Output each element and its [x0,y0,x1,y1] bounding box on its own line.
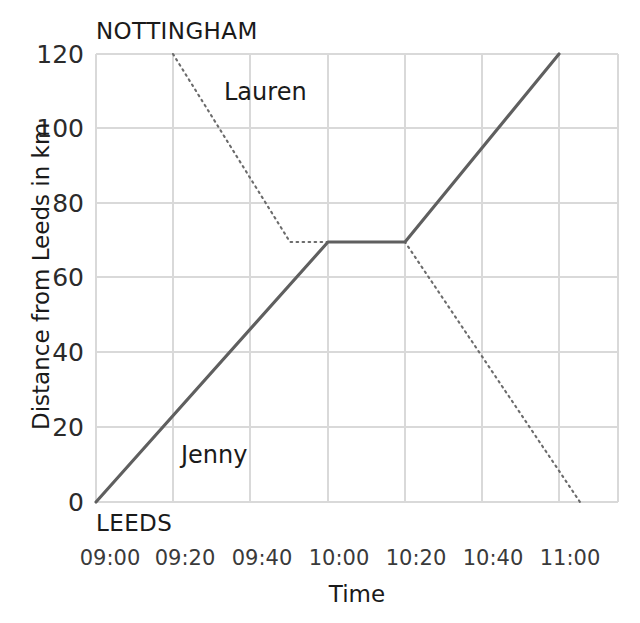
terminus-label-nottingham: NOTTINGHAM [96,20,258,43]
series-label-lauren: Lauren [224,80,307,104]
y-tick-0: 0 [36,490,84,515]
terminus-label-leeds: LEEDS [96,512,172,535]
x-tick-1020: 10:20 [386,548,447,569]
x-tick-0940: 09:40 [232,548,293,569]
y-tick-120: 120 [36,42,84,67]
x-tick-0920: 09:20 [155,548,216,569]
series-label-jenny: Jenny [181,443,247,467]
x-tick-1000: 10:00 [309,548,370,569]
x-tick-0900: 09:00 [80,548,141,569]
horizontal-gridlines [96,54,618,502]
vertical-gridlines [96,54,618,502]
x-axis-title: Time [329,583,385,606]
travel-graph-chart: 120 100 80 60 40 20 0 09:00 09:20 09:40 … [0,0,640,623]
y-axis-title: Distance from Leeds in km [30,123,53,430]
x-tick-1040: 10:40 [463,548,524,569]
x-tick-1100: 11:00 [540,548,601,569]
series-line-lauren [173,54,580,502]
